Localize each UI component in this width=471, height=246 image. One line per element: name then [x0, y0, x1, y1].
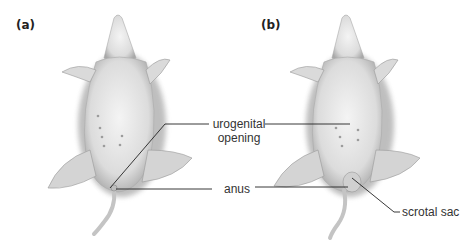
panel-label-a: (a)	[16, 18, 35, 32]
label-urogenital-line2: opening	[210, 131, 268, 145]
rat-female-illustration	[48, 15, 192, 234]
label-scrotal-sac: scrotal sac	[402, 205, 459, 219]
label-urogenital-line1: urogenital	[210, 117, 268, 131]
panel-label-b: (b)	[261, 18, 281, 32]
label-anus: anus	[222, 182, 252, 196]
rat-male-illustration	[274, 15, 420, 238]
label-urogenital-opening: urogenital opening	[210, 117, 268, 145]
